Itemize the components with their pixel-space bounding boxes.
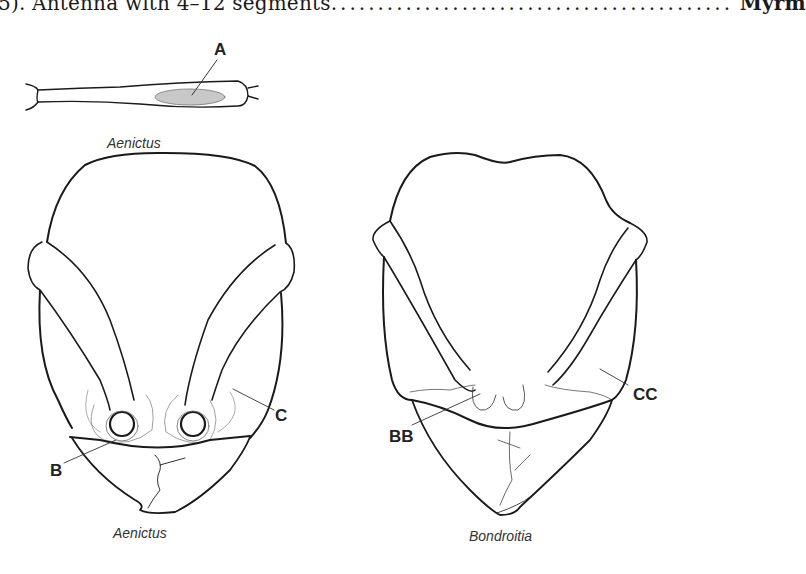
aenictus-head-illustration	[28, 153, 294, 513]
caption-antenna: Aenictus	[107, 135, 161, 151]
label-cc: CC	[633, 385, 658, 405]
label-b: B	[50, 461, 62, 481]
label-bb: BB	[389, 427, 414, 447]
bondroitia-head-illustration	[373, 153, 647, 515]
caption-head-right: Bondroitia	[469, 528, 532, 544]
label-c: C	[275, 406, 287, 426]
caption-head-left: Aenictus	[113, 525, 167, 541]
label-a: A	[214, 40, 226, 60]
taxon-name: Myrm	[740, 0, 806, 15]
antenna-illustration	[26, 60, 258, 110]
